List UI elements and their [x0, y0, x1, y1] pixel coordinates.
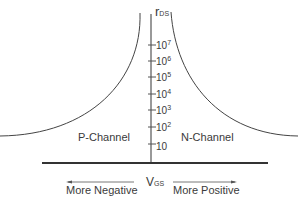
p-channel-label: P-Channel — [78, 131, 130, 143]
diagram-canvas — [0, 0, 302, 197]
x-axis-label-main: V — [146, 175, 154, 189]
p-channel-curve — [0, 13, 140, 136]
more-negative-label: More Negative — [66, 184, 138, 196]
tick-label: 106 — [156, 54, 171, 67]
n-channel-curve — [171, 12, 298, 136]
tick-label: 107 — [156, 38, 171, 51]
y-axis-ticks — [148, 45, 156, 144]
tick-label: 103 — [156, 103, 171, 116]
x-axis-label-sub: GS — [154, 180, 164, 187]
tick-label: 104 — [156, 87, 171, 100]
tick-label: 105 — [156, 70, 171, 83]
more-positive-label: More Positive — [173, 184, 240, 196]
y-axis-label-sub: DS — [159, 10, 169, 17]
n-channel-label: N-Channel — [181, 131, 234, 143]
x-axis-label: VGS — [146, 175, 164, 189]
tick-label: 102 — [156, 120, 171, 133]
y-axis-label: rDS — [155, 4, 169, 19]
tick-label: 10 — [156, 139, 167, 152]
